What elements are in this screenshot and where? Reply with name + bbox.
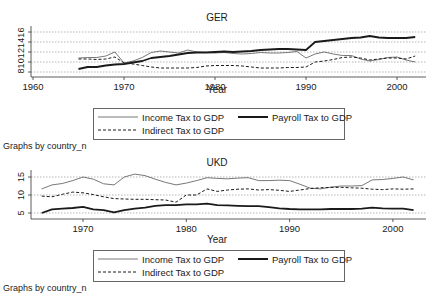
legend: Income Tax to GDP Payroll Tax to GDP Ind… <box>93 250 345 282</box>
legend-item-indirect: Indirect Tax to GDP <box>98 266 224 278</box>
thick-line-icon <box>238 255 268 263</box>
ukd-panel: UKD 510151970198019902000 Year Income Ta… <box>0 0 434 307</box>
thin-line-icon <box>98 255 138 263</box>
y-tick-label: 5 <box>16 210 26 215</box>
x-tick-label: 1970 <box>72 223 93 234</box>
legend-item-payroll: Payroll Tax to GDP <box>238 253 352 265</box>
x-tick-label: 1990 <box>279 223 300 234</box>
y-tick-label: 15 <box>16 172 26 182</box>
x-tick-label: 1980 <box>176 223 197 234</box>
graph-caption: Graphs by country_n <box>3 283 87 293</box>
y-tick-label: 10 <box>16 190 26 200</box>
series-payroll-tax-to-gdp <box>42 204 414 213</box>
x-tick-label: 2000 <box>382 223 403 234</box>
ukd-plot: 510151970198019902000 <box>0 0 434 240</box>
dashed-line-icon <box>98 268 138 276</box>
legend-item-income: Income Tax to GDP <box>98 253 224 265</box>
series-income-tax-to-gdp <box>42 174 414 189</box>
x-axis-label: Year <box>0 234 434 245</box>
